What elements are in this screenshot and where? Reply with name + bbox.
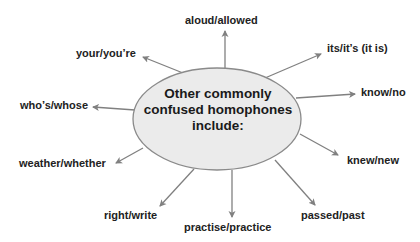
center-line-1: Other commonly: [140, 86, 296, 102]
center-line-3: include:: [140, 118, 296, 134]
arrow-right-write: [160, 169, 194, 206]
branch-label-know-no: know/no: [361, 86, 406, 99]
branch-label-practise-practice: practise/practice: [184, 221, 271, 234]
arrow-passed-past: [275, 160, 315, 205]
branch-label-whos-whose: who’s/whose: [20, 99, 88, 112]
center-title: Other commonly confused homophones inclu…: [140, 86, 296, 134]
arrow-whos-whose: [93, 107, 135, 110]
arrow-weather-whether: [116, 148, 143, 163]
arrow-know-no: [296, 94, 355, 98]
arrow-knew-new: [300, 134, 338, 155]
branch-label-knew-new: knew/new: [347, 154, 399, 167]
center-line-2: confused homophones: [140, 102, 296, 118]
branch-label-its-its: its/it’s (it is): [327, 42, 388, 55]
homophones-diagram: Other commonly confused homophones inclu…: [0, 0, 420, 242]
branch-label-right-write: right/write: [104, 209, 157, 222]
arrow-your-youre: [143, 57, 183, 73]
branch-label-aloud-allowed: aloud/allowed: [185, 14, 258, 27]
branch-label-passed-past: passed/past: [301, 209, 365, 222]
branch-label-your-youre: your/you’re: [76, 47, 136, 60]
branch-label-weather-whether: weather/whether: [19, 157, 106, 170]
arrow-its-its: [265, 54, 321, 78]
